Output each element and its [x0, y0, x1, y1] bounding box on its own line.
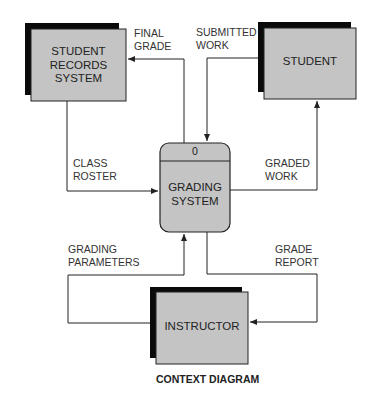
flow-submitted-work: [207, 58, 258, 141]
entity-student-records-label: STUDENT RECORDS SYSTEM: [31, 45, 126, 86]
flow-label-line: PARAMETERS: [68, 256, 140, 269]
flow-final-grade: [128, 59, 184, 143]
entity-instructor-label: INSTRUCTOR: [156, 320, 248, 334]
flow-label-graded-work: GRADED WORK: [265, 157, 310, 182]
flow-label-final-grade: FINAL GRADE: [134, 27, 171, 52]
process-number: 0: [160, 145, 230, 159]
flow-label-line: ROSTER: [73, 170, 117, 183]
flow-label-grade-report: GRADE REPORT: [275, 243, 319, 268]
flow-label-line: WORK: [196, 39, 257, 52]
entity-label-line: SYSTEM: [31, 72, 126, 86]
flow-label-line: WORK: [265, 170, 310, 183]
flow-label-line: GRADE: [275, 243, 319, 256]
entity-label-line: RECORDS: [31, 59, 126, 73]
diagram-caption: CONTEXT DIAGRAM: [156, 373, 259, 385]
flow-label-line: FINAL: [134, 27, 171, 40]
flow-label-submitted-work: SUBMITTED WORK: [196, 26, 257, 51]
process-name: GRADING SYSTEM: [160, 181, 230, 208]
entity-label-line: STUDENT: [31, 45, 126, 59]
flow-label-line: GRADE: [134, 40, 171, 53]
flow-label-line: SUBMITTED: [196, 26, 257, 39]
flow-label-line: GRADED: [265, 157, 310, 170]
flow-label-grading-parameters: GRADING PARAMETERS: [68, 243, 140, 268]
flow-label-line: GRADING: [68, 243, 140, 256]
entity-student-label: STUDENT: [264, 55, 356, 69]
flow-label-class-roster: CLASS ROSTER: [73, 157, 117, 182]
flow-label-line: REPORT: [275, 256, 319, 269]
process-name-line: SYSTEM: [160, 195, 230, 209]
flow-label-line: CLASS: [73, 157, 117, 170]
process-name-line: GRADING: [160, 181, 230, 195]
